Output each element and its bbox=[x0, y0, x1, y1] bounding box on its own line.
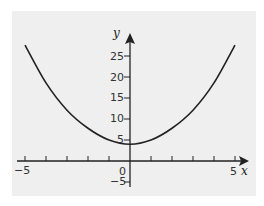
y-tick-label-5: 5 bbox=[117, 133, 124, 146]
y-ticks bbox=[124, 56, 130, 182]
y-tick-label-neg5: −5 bbox=[110, 175, 126, 188]
y-tick-label-15: 15 bbox=[110, 91, 124, 104]
y-tick-label-10: 10 bbox=[110, 112, 124, 125]
y-tick-label-20: 20 bbox=[110, 71, 124, 84]
y-axis-label: y bbox=[112, 26, 120, 40]
x-tick-label-min: −5 bbox=[14, 164, 30, 177]
chart: y x −5 5 0 25 20 15 10 5 −5 bbox=[0, 0, 264, 206]
y-tick-label-25: 25 bbox=[110, 50, 124, 63]
x-axis-label: x bbox=[241, 164, 248, 178]
x-tick-label-max: 5 bbox=[230, 165, 237, 178]
